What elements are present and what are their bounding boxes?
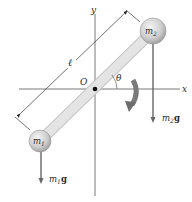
mass-m2: m2 xyxy=(140,18,166,44)
force-arrow-m2g: m2g xyxy=(151,43,180,124)
rotation-arrow-icon xyxy=(125,80,136,112)
dimension-tick-top xyxy=(126,10,140,22)
x-axis-label: x xyxy=(182,84,187,94)
length-label: ℓ xyxy=(68,57,72,68)
dimension-tick-bottom xyxy=(15,117,30,130)
mass-m1: m1 xyxy=(29,130,51,152)
origin-label: O xyxy=(80,77,88,87)
pivot-point xyxy=(93,87,98,92)
force-label-m1g: m1g xyxy=(49,174,67,185)
theta-label: θ xyxy=(116,73,122,83)
rigid-rod-diagram: y x ℓ O θ m2g m1g xyxy=(0,0,192,202)
force-label-m2g: m2g xyxy=(162,113,180,124)
force-arrow-m1g: m1g xyxy=(39,151,67,185)
y-axis-label: y xyxy=(90,5,97,15)
